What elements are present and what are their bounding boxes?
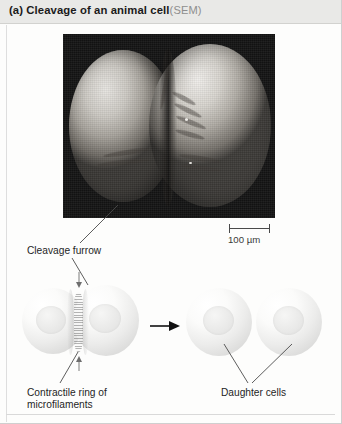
micrograph-highlight-speck <box>189 162 192 164</box>
page-bottom-rule <box>6 414 335 415</box>
diagram-nucleus-left <box>36 306 66 334</box>
page-left-rule <box>6 25 7 422</box>
micrograph-highlight-speck <box>185 118 188 121</box>
figure-panel-a: (a) Cleavage of an animal cell(SEM) 100 … <box>0 0 342 424</box>
label-daughter-cells: Daughter cells <box>221 387 286 399</box>
stage-transition-arrow <box>150 321 180 331</box>
scale-bar-cap-left <box>229 224 230 233</box>
scale-bar-label: 100 µm <box>228 234 260 245</box>
figure-header-title-text: (a) Cleavage of an animal cell <box>9 4 170 16</box>
diagram-daughter-nucleus-left <box>203 306 234 335</box>
figure-header-technique: (SEM) <box>170 4 202 16</box>
leader-line-contractile-ring <box>60 352 78 383</box>
transition-arrow-head <box>169 321 180 331</box>
diagram-daughter-nucleus-right <box>273 306 304 335</box>
label-contractile-ring-of-microfilaments: Contractile ring of microfilaments <box>27 387 107 411</box>
furrow-arrow-bottom-head <box>76 356 82 362</box>
furrow-arrow-top-head <box>76 282 82 288</box>
diagram-furrow-shadow-right <box>82 289 89 355</box>
leader-line-furrow-to-diagram <box>72 258 88 285</box>
scale-bar-cap-right <box>269 224 270 233</box>
diagram-contractile-ring <box>74 292 83 352</box>
figure-header-title: (a) Cleavage of an animal cell(SEM) <box>9 4 202 16</box>
diagram-furrow-shadow-left <box>67 289 74 355</box>
label-cleavage-furrow: Cleavage furrow <box>27 245 101 257</box>
scale-bar-line <box>229 228 270 229</box>
sem-micrograph-dividing-cell <box>63 34 275 218</box>
diagram-nucleus-right <box>89 304 121 333</box>
